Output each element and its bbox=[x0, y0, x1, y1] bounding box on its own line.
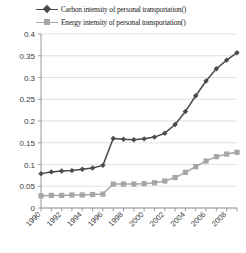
x-axis-tick-label: 2004 bbox=[169, 210, 187, 228]
x-axis-tick-label: 2000 bbox=[127, 210, 145, 228]
data-point-marker bbox=[141, 136, 146, 141]
series-line bbox=[41, 53, 237, 174]
data-point-marker bbox=[224, 151, 229, 156]
chart-container: Carbon intensity of personal transportat… bbox=[0, 0, 246, 253]
data-point-marker bbox=[38, 171, 43, 176]
data-point-marker bbox=[49, 169, 54, 174]
data-point-marker bbox=[100, 191, 105, 196]
data-point-marker bbox=[90, 165, 95, 170]
data-point-marker bbox=[80, 167, 85, 172]
x-axis-tick-label: 2002 bbox=[148, 210, 166, 228]
data-point-marker bbox=[111, 136, 116, 141]
data-point-marker bbox=[59, 168, 64, 173]
series-carbon-intensity bbox=[38, 50, 239, 176]
chart-svg: 00.050.10.150.20.250.30.350.4 1990199219… bbox=[0, 0, 246, 253]
y-axis-tick-label: 0.2 bbox=[24, 117, 36, 126]
data-point-marker bbox=[131, 181, 136, 186]
data-point-marker bbox=[111, 181, 116, 186]
data-point-marker bbox=[203, 158, 208, 163]
data-point-marker bbox=[100, 163, 105, 168]
data-point-marker bbox=[59, 193, 64, 198]
data-point-marker bbox=[38, 193, 43, 198]
x-axis-tick-label: 1992 bbox=[45, 210, 63, 228]
data-point-marker bbox=[162, 178, 167, 183]
data-point-marker bbox=[69, 168, 74, 173]
x-axis-tick-label: 2008 bbox=[210, 210, 228, 228]
x-axis-tick-label: 1990 bbox=[24, 210, 42, 228]
y-axis-tick-label: 0.4 bbox=[24, 30, 36, 39]
x-axis-tick-label: 1996 bbox=[86, 210, 104, 228]
y-axis-tick-label: 0.35 bbox=[19, 52, 35, 61]
plot-area: 00.050.10.150.20.250.30.350.4 1990199219… bbox=[0, 0, 246, 253]
data-point-marker bbox=[152, 180, 157, 185]
data-point-marker bbox=[49, 193, 54, 198]
data-point-marker bbox=[214, 154, 219, 159]
data-point-marker bbox=[121, 137, 126, 142]
data-point-marker bbox=[142, 181, 147, 186]
gridlines bbox=[41, 34, 237, 208]
data-point-marker bbox=[183, 170, 188, 175]
y-axis-labels: 00.050.10.150.20.250.30.350.4 bbox=[19, 30, 35, 213]
data-point-marker bbox=[121, 181, 126, 186]
x-axis-tick-label: 2006 bbox=[189, 210, 207, 228]
y-axis-tick-label: 0.1 bbox=[24, 161, 36, 170]
x-axis-tick-label: 1994 bbox=[65, 210, 83, 228]
x-axis-labels: 1990199219941996199820002002200420062008 bbox=[24, 210, 228, 228]
data-point-marker bbox=[90, 192, 95, 197]
y-axis-tick-label: 0.3 bbox=[24, 74, 36, 83]
y-axis-tick-label: 0.05 bbox=[19, 182, 35, 191]
data-point-marker bbox=[234, 150, 239, 155]
data-point-marker bbox=[193, 164, 198, 169]
data-point-marker bbox=[69, 192, 74, 197]
y-axis-tick-label: 0.25 bbox=[19, 95, 35, 104]
data-point-marker bbox=[173, 175, 178, 180]
y-axis-tick-label: 0.15 bbox=[19, 139, 35, 148]
data-point-marker bbox=[152, 134, 157, 139]
data-point-marker bbox=[80, 192, 85, 197]
x-axis-tick-label: 1998 bbox=[107, 210, 125, 228]
data-point-marker bbox=[131, 137, 136, 142]
series-energy-intensity bbox=[38, 150, 239, 199]
